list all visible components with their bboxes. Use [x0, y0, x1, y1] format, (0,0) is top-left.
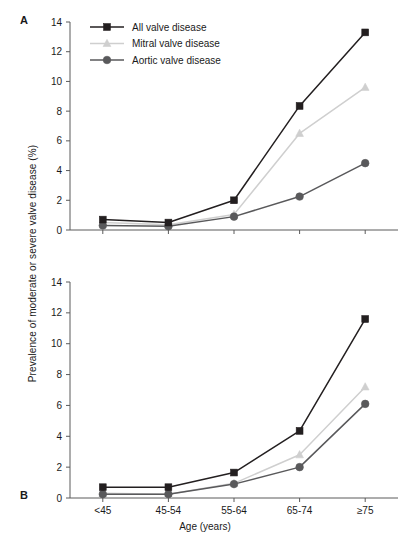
y-axis-tick-label: 12 — [51, 46, 63, 57]
x-axis-tick-label: <45 — [94, 505, 111, 516]
x-axis-tick-label: ≥75 — [357, 505, 374, 516]
y-axis-tick-label: 6 — [56, 400, 62, 411]
legend-marker — [104, 24, 111, 31]
data-point-marker — [296, 129, 304, 136]
data-point-marker — [230, 480, 238, 488]
legend-marker — [103, 56, 111, 64]
data-point-marker — [296, 427, 303, 434]
data-point-marker — [165, 484, 172, 491]
y-axis-tick-label: 2 — [56, 195, 62, 206]
legend-label: Mitral valve disease — [132, 38, 220, 49]
data-series — [99, 316, 368, 491]
data-point-marker — [165, 219, 172, 226]
data-point-marker — [231, 469, 238, 476]
data-series — [99, 400, 369, 498]
data-point-marker — [230, 213, 238, 221]
data-point-marker — [99, 484, 106, 491]
data-point-marker — [165, 490, 173, 498]
y-axis-tick-label: 8 — [56, 106, 62, 117]
data-series — [99, 83, 369, 228]
y-axis-tick-label: 0 — [56, 493, 62, 504]
data-point-marker — [296, 463, 304, 471]
data-point-marker — [361, 83, 369, 90]
y-axis-tick-label: 12 — [51, 307, 63, 318]
y-axis-tick-label: 14 — [51, 277, 63, 288]
series-line — [103, 319, 365, 487]
data-point-marker — [361, 383, 369, 390]
data-point-marker — [99, 216, 106, 223]
data-point-marker — [296, 103, 303, 110]
y-axis-tick-label: 10 — [51, 76, 63, 87]
data-point-marker — [362, 316, 369, 323]
series-line — [103, 387, 365, 494]
data-point-marker — [362, 29, 369, 36]
y-axis-tick-label: 6 — [56, 135, 62, 146]
y-axis-tick-label: 4 — [56, 431, 62, 442]
x-axis-tick-label: 45-54 — [156, 505, 182, 516]
data-point-marker — [296, 193, 304, 201]
legend: All valve diseaseMitral valve diseaseAor… — [90, 22, 221, 66]
y-axis-tick-label: 4 — [56, 165, 62, 176]
x-axis-tick-label: 65-74 — [287, 505, 313, 516]
data-point-marker — [99, 490, 107, 498]
y-axis-tick-label: 10 — [51, 338, 63, 349]
y-axis-tick-label: 14 — [51, 17, 63, 28]
series-line — [103, 87, 365, 224]
x-axis-title: Age (years) — [0, 521, 410, 532]
data-point-marker — [231, 197, 238, 204]
data-series — [99, 159, 369, 230]
data-point-marker — [361, 400, 369, 408]
y-axis-tick-label: 2 — [56, 462, 62, 473]
panel-b-plot: 02468101214<4545-5455-6465-74≥75 — [0, 260, 410, 520]
x-axis-tick-label: 55-64 — [221, 505, 247, 516]
legend-label: Aortic valve disease — [132, 55, 221, 66]
y-axis-tick-label: 8 — [56, 369, 62, 380]
y-axis-tick-label: 0 — [56, 225, 62, 236]
legend-label: All valve disease — [132, 22, 207, 33]
panel-a-plot: 02468101214All valve diseaseMitral valve… — [0, 0, 410, 260]
data-point-marker — [361, 159, 369, 167]
figure-container: Prevalence of moderate or severe valve d… — [0, 0, 410, 541]
